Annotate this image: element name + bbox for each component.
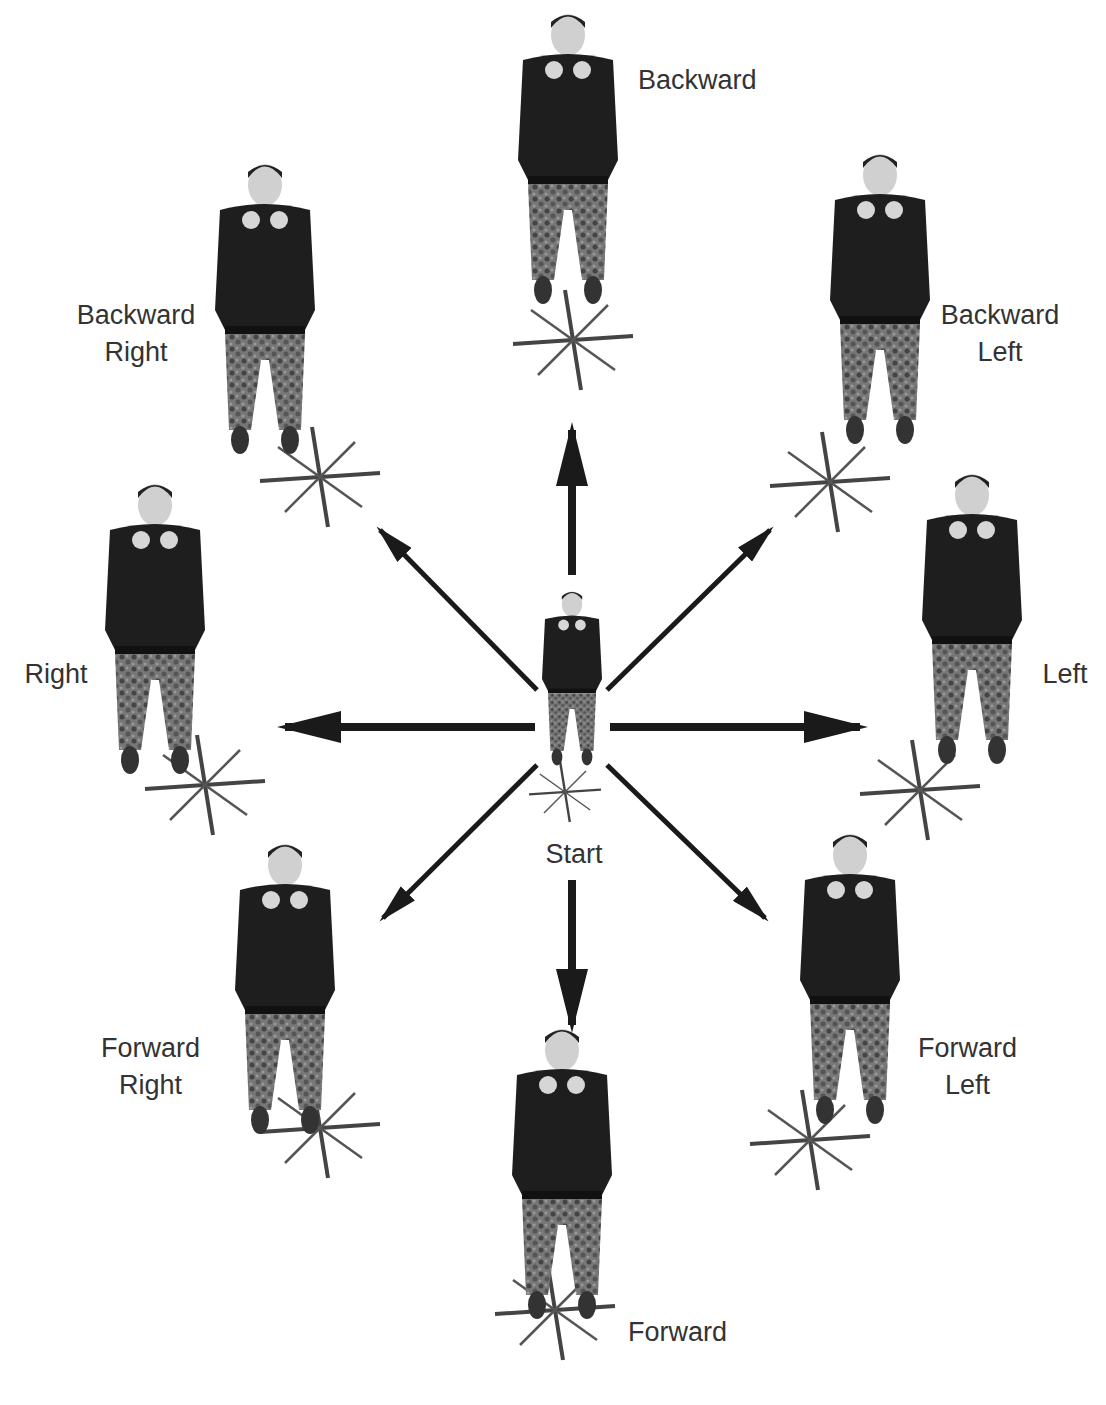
- label-right: Right: [15, 656, 97, 693]
- label-forward: Forward: [628, 1314, 727, 1351]
- arrow-backward-left: [607, 530, 770, 690]
- label-backward-left: Backward Left: [930, 297, 1070, 371]
- arrow-backward-right: [380, 530, 537, 690]
- diagram-canvas: [0, 0, 1106, 1405]
- figure-forward-left: [750, 834, 900, 1190]
- label-forward-right: Forward Right: [88, 1030, 213, 1104]
- arrow-forward-right: [383, 765, 537, 918]
- label-backward: Backward: [638, 62, 757, 99]
- direction-arrows: [285, 430, 860, 1025]
- figure-right: [105, 484, 265, 835]
- figure-left: [860, 474, 1022, 840]
- figure-forward: [495, 1029, 615, 1360]
- arrow-forward-left: [607, 765, 765, 918]
- figure-backward-left: [770, 154, 930, 532]
- label-start: Start: [534, 836, 614, 873]
- figure-start: [529, 591, 602, 822]
- figure-backward: [513, 14, 633, 390]
- label-forward-left: Forward Left: [905, 1030, 1030, 1104]
- figure-backward-right: [215, 164, 380, 527]
- label-backward-right: Backward Right: [66, 297, 206, 371]
- label-left: Left: [1035, 656, 1095, 693]
- figure-forward-right: [235, 844, 380, 1178]
